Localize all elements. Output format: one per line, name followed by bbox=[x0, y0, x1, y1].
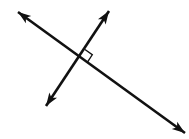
geometry-canvas bbox=[0, 0, 189, 139]
geometry-figure bbox=[0, 0, 189, 139]
